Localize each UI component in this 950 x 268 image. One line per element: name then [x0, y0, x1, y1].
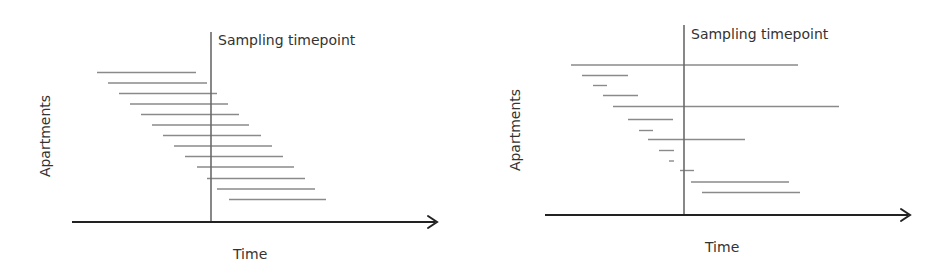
sampling-diagram-figure: Sampling timepoint Time Apartments Sampl…	[0, 0, 950, 268]
right-y-axis-label: Apartments	[508, 89, 522, 171]
right-sampling-timepoint-label: Sampling timepoint	[691, 27, 828, 41]
right-x-axis-label: Time	[705, 240, 739, 254]
left-x-axis-label: Time	[233, 247, 267, 261]
left-sampling-timepoint-label: Sampling timepoint	[218, 33, 355, 47]
left-y-axis-label: Apartments	[38, 95, 52, 177]
